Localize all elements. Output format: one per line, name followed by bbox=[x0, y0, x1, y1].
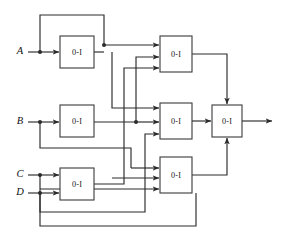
junction-B bbox=[38, 120, 42, 124]
bus-wires bbox=[94, 45, 159, 184]
gate-g7[interactable]: 0-I bbox=[212, 105, 242, 137]
gate-label-g4: 0-I bbox=[171, 50, 181, 59]
gate-g1[interactable]: 0-I bbox=[60, 36, 94, 68]
gate-label-g7: 0-I bbox=[222, 117, 232, 126]
gate-g6[interactable]: 0-I bbox=[160, 157, 192, 193]
wire-to-g5-in3 bbox=[145, 134, 159, 193]
input-label-B: B bbox=[17, 115, 24, 126]
input-label-C: C bbox=[16, 168, 24, 179]
wire-g2-to-g4-in2 bbox=[136, 57, 159, 122]
wire-g6-to-g7 bbox=[192, 138, 227, 175]
gate-label-g5: 0-I bbox=[171, 117, 181, 126]
circuit-svg: 0-I 0-I 0-I 0-I 0-I 0-I 0-I A B C D bbox=[0, 0, 283, 238]
gate-g5[interactable]: 0-I bbox=[160, 103, 192, 139]
gate-g4[interactable]: 0-I bbox=[160, 36, 192, 72]
input-label-A: A bbox=[16, 45, 24, 56]
gate-label-g3: 0-I bbox=[72, 180, 82, 189]
junction-g1-out bbox=[102, 43, 106, 47]
input-label-D: D bbox=[15, 186, 24, 197]
junction-C bbox=[38, 173, 42, 177]
junction-A bbox=[38, 50, 42, 54]
gate-label-g6: 0-I bbox=[171, 171, 181, 180]
wire-g3-to-g4-in3 bbox=[94, 68, 159, 184]
junction-g2-out bbox=[134, 120, 138, 124]
gate-label-g2: 0-I bbox=[72, 117, 82, 126]
gate-label-g1: 0-I bbox=[72, 48, 82, 57]
wire-g4-to-g7 bbox=[192, 54, 227, 104]
gate-g3[interactable]: 0-I bbox=[60, 168, 94, 200]
junction-D bbox=[38, 191, 42, 195]
circuit-diagram-root: 0-I 0-I 0-I 0-I 0-I 0-I 0-I A B C D bbox=[0, 0, 283, 238]
input-wires bbox=[28, 52, 59, 193]
gate-g2[interactable]: 0-I bbox=[60, 105, 94, 137]
